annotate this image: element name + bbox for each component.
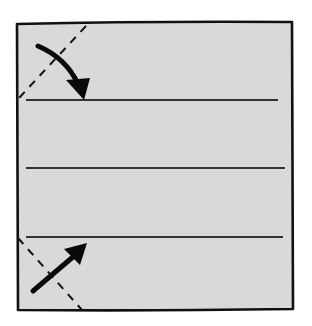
origami-diagram <box>0 0 312 326</box>
